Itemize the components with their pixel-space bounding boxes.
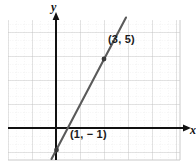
coordinate-plane: y x (3, 5) (1, − 1)	[0, 0, 196, 167]
data-point-1-neg1	[54, 148, 59, 153]
point-label-1-neg1: (1, − 1)	[70, 128, 107, 140]
point-label-3-5: (3, 5)	[108, 33, 135, 45]
graph-screenshot: y x (3, 5) (1, − 1)	[0, 0, 196, 167]
x-axis-label: x	[190, 123, 196, 138]
graph-canvas	[0, 0, 196, 167]
y-axis-label: y	[51, 0, 56, 15]
data-point-3-5	[102, 57, 107, 62]
